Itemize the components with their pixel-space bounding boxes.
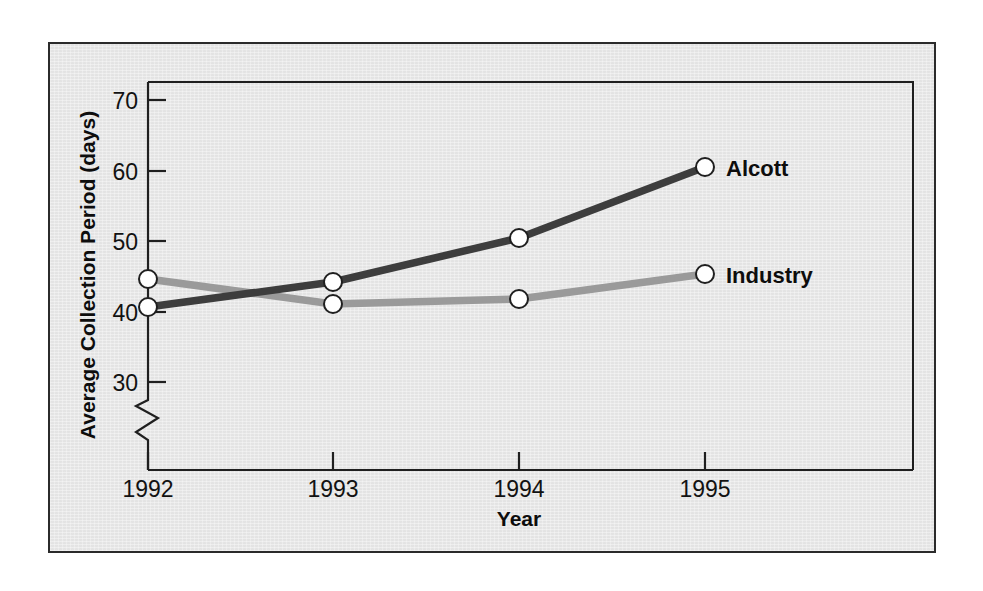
data-point-industry-1994: [510, 290, 528, 308]
data-point-industry-1992: [139, 270, 157, 288]
data-point-alcott-1994: [510, 229, 528, 247]
line-chart: 70 60 50 40 30 1992 1993 1994 1995 Year …: [0, 0, 983, 591]
data-point-industry-1993: [324, 295, 342, 313]
y-axis-title: Average Collection Period (days): [76, 111, 99, 439]
y-tick-label-30: 30: [112, 370, 138, 396]
series-label-alcott: Alcott: [726, 156, 789, 181]
x-tick-label-1993: 1993: [307, 476, 358, 502]
data-point-alcott-1995: [696, 158, 714, 176]
y-tick-label-50: 50: [112, 229, 138, 255]
y-tick-label-40: 40: [112, 300, 138, 326]
series-label-industry: Industry: [726, 263, 814, 288]
data-point-alcott-1993: [324, 273, 342, 291]
x-axis-title: Year: [497, 507, 541, 530]
y-tick-label-70: 70: [112, 88, 138, 114]
x-tick-label-1995: 1995: [679, 476, 730, 502]
data-point-industry-1995: [696, 265, 714, 283]
data-point-alcott-1992: [139, 298, 157, 316]
figure-container: 70 60 50 40 30 1992 1993 1994 1995 Year …: [0, 0, 983, 591]
y-tick-label-60: 60: [112, 159, 138, 185]
x-tick-label-1994: 1994: [493, 476, 544, 502]
series-line-industry: [148, 274, 705, 304]
x-tick-label-1992: 1992: [122, 476, 173, 502]
